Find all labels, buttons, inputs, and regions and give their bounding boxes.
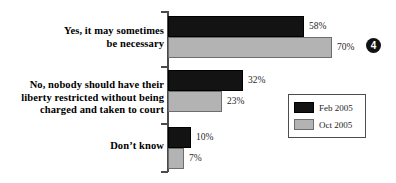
bar-chart: Yes, it may sometimes be necessary No, n… — [0, 0, 396, 183]
bar-oct2005-category-0 — [168, 37, 332, 58]
legend-item-oct2005: Oct 2005 — [294, 116, 360, 133]
legend-swatch-feb2005 — [294, 102, 314, 113]
bar-feb2005-category-2 — [168, 127, 191, 148]
legend: Feb 2005 Oct 2005 — [288, 94, 366, 138]
category-label-0: Yes, it may sometimes be necessary — [4, 25, 164, 50]
axis-tick-group-2 — [161, 123, 168, 125]
bar-value-feb2005-category-2: 10% — [196, 127, 213, 148]
bar-value-feb2005-category-1: 32% — [248, 70, 265, 91]
bar-feb2005-category-0 — [168, 16, 304, 37]
bar-value-oct2005-category-2: 7% — [189, 148, 202, 169]
plot-area: 58% 70% 32% 23% 10% 7% — [168, 0, 396, 183]
bar-value-oct2005-category-1: 23% — [227, 91, 244, 112]
bar-oct2005-category-2 — [168, 148, 184, 169]
axis-tick-top — [161, 11, 168, 13]
legend-label-feb2005: Feb 2005 — [319, 103, 353, 113]
category-label-1-line-2: charged and taken to court — [4, 104, 164, 117]
bar-oct2005-category-1 — [168, 91, 222, 112]
category-label-1: No, nobody should have their liberty res… — [4, 79, 164, 117]
bar-feb2005-category-1 — [168, 70, 243, 91]
category-label-1-line-1: liberty restricted without being — [4, 92, 164, 105]
legend-item-feb2005: Feb 2005 — [294, 99, 360, 116]
figure-number-badge: 4 — [366, 38, 381, 53]
category-label-2: Don’t know — [4, 140, 164, 153]
category-label-2-line-0: Don’t know — [4, 140, 164, 153]
bar-value-oct2005-category-0: 70% — [337, 37, 354, 58]
axis-tick-group-1 — [161, 66, 168, 68]
legend-label-oct2005: Oct 2005 — [319, 120, 352, 130]
category-label-1-line-0: No, nobody should have their — [4, 79, 164, 92]
legend-swatch-oct2005 — [294, 119, 314, 130]
category-label-0-line-0: Yes, it may sometimes — [4, 25, 164, 38]
category-label-0-line-1: be necessary — [4, 38, 164, 51]
bar-value-feb2005-category-0: 58% — [309, 16, 326, 37]
axis-tick-bottom — [161, 171, 168, 173]
